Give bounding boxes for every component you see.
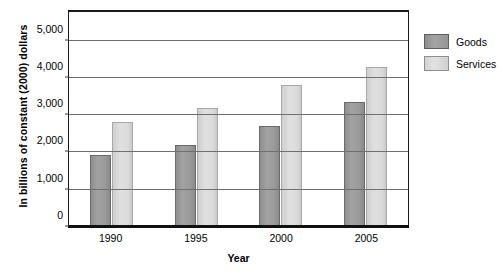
bar-groups — [69, 12, 408, 227]
legend-swatch-services — [424, 56, 449, 71]
axis-baseline — [68, 225, 409, 228]
legend-item-services[interactable]: Services — [424, 56, 496, 71]
legend-swatch-goods — [424, 34, 449, 49]
bar-services-2005 — [366, 67, 387, 227]
bar-group-2000 — [239, 12, 324, 227]
y-tick-label: 2,000 — [37, 134, 63, 146]
y-tick-label: 1,000 — [37, 172, 63, 184]
bar-services-1990 — [112, 122, 133, 227]
bar-goods-1995 — [175, 145, 196, 227]
bar-chart: In billions of constant (2000) dollars 0… — [0, 0, 503, 272]
legend-label-services: Services — [456, 58, 496, 70]
bar-goods-2000 — [259, 126, 280, 227]
bar-services-1995 — [197, 108, 218, 227]
gridline — [69, 77, 408, 78]
y-tick-mark — [65, 39, 69, 40]
x-tick-label-2000: 2000 — [239, 232, 324, 244]
legend: GoodsServices — [424, 34, 496, 78]
gridline — [69, 114, 408, 115]
x-axis-tick-labels: 1990199520002005 — [68, 232, 409, 244]
y-tick-label: 3,000 — [37, 97, 63, 109]
bar-group-1990 — [69, 12, 154, 227]
bar-services-2000 — [281, 85, 302, 227]
y-tick-mark — [65, 114, 69, 115]
bar-goods-2005 — [344, 102, 365, 227]
y-tick-mark — [65, 151, 69, 152]
y-tick-label: 4,000 — [37, 60, 63, 72]
y-tick-label: 0 — [57, 209, 63, 221]
x-tick-label-1990: 1990 — [68, 232, 153, 244]
bar-group-1995 — [154, 12, 239, 227]
bar-group-2005 — [323, 12, 408, 227]
x-axis-title: Year — [68, 252, 409, 264]
legend-item-goods[interactable]: Goods — [424, 34, 496, 49]
y-tick-mark — [65, 76, 69, 77]
gridline — [69, 151, 408, 152]
y-tick-mark — [65, 226, 69, 227]
bar-goods-1990 — [90, 155, 111, 227]
plot-area: 01,0002,0003,0004,0005,000 — [68, 10, 409, 228]
x-tick-label-1995: 1995 — [153, 232, 238, 244]
y-tick-label: 5,000 — [37, 23, 63, 35]
legend-label-goods: Goods — [456, 36, 487, 48]
gridline — [69, 40, 408, 41]
y-axis-title: In billions of constant (2000) dollars — [17, 1, 29, 231]
y-tick-mark — [65, 188, 69, 189]
x-tick-label-2005: 2005 — [324, 232, 409, 244]
gridline — [69, 189, 408, 190]
